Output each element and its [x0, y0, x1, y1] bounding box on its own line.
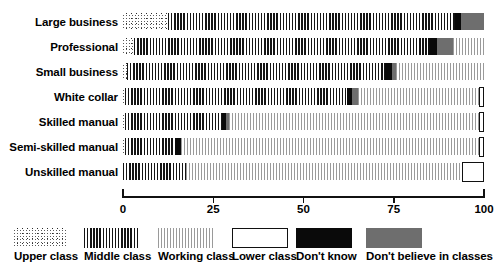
- stacked-bar-row: [123, 113, 484, 130]
- x-tick-label: 100: [474, 203, 493, 215]
- legend-label: Upper class: [14, 250, 78, 262]
- bar-segment-working: [181, 138, 479, 155]
- x-tick-label: 50: [297, 203, 310, 215]
- bar-segment-lower: [479, 112, 484, 132]
- x-tick-mark: [303, 196, 305, 203]
- bar-segment-lower: [479, 87, 484, 107]
- legend-swatch-dotted-stipple: [14, 228, 66, 248]
- bar-segment-lower: [479, 137, 484, 157]
- legend-label: Don't know: [296, 250, 357, 262]
- legend-item-lower: Lower class: [232, 228, 297, 262]
- legend-swatch-dense-vertical-stripes: [84, 228, 140, 248]
- stacked-bar-row: [123, 63, 484, 80]
- legend-swatch-light-vertical-stripes: [158, 228, 214, 248]
- bar-segment-middle: [127, 63, 385, 80]
- bar-segment-middle: [125, 113, 222, 130]
- bar-segment-middle: [134, 38, 428, 55]
- category-label-text: Large business: [35, 16, 118, 28]
- bar-segment-working: [229, 113, 478, 130]
- legend-swatch-white-outlined-box: [232, 228, 288, 248]
- category-label-text: Small business: [36, 66, 118, 78]
- legend-item-dontknow: Don't know: [296, 228, 357, 262]
- x-tick-label: 75: [387, 203, 400, 215]
- bar-segment-dontknow: [428, 38, 437, 55]
- x-tick-mark: [393, 196, 395, 203]
- stacked-bar-row: [123, 38, 484, 55]
- legend-label: Lower class: [232, 250, 297, 262]
- bar-segment-lower: [462, 162, 484, 182]
- stacked-bar-chart: Large businessProfessionalSmall business…: [0, 0, 501, 272]
- bar-segment-working: [186, 163, 462, 180]
- x-tick-label: 25: [207, 203, 220, 215]
- category-label-6: Semi-skilled manual: [0, 138, 118, 155]
- category-label-2: Professional: [0, 38, 118, 55]
- category-label-3: Small business: [0, 63, 118, 80]
- bar-segment-upper: [123, 13, 168, 30]
- x-tick-label: 0: [120, 203, 126, 215]
- bar-segment-upper: [123, 38, 134, 55]
- bar-segment-middle: [123, 163, 186, 180]
- category-label-7: Unskilled manual: [0, 163, 118, 180]
- bar-segment-dontknow: [385, 63, 392, 80]
- category-label-1: Large business: [0, 13, 118, 30]
- legend-label: Working class: [158, 250, 234, 262]
- legend-item-middle: Middle class: [84, 228, 151, 262]
- bar-segment-middle: [125, 88, 347, 105]
- category-label-text: Unskilled manual: [25, 166, 118, 178]
- bar-segment-dontbelieve: [461, 13, 484, 30]
- bar-segment-working: [453, 38, 484, 55]
- legend-swatch-solid-black: [296, 228, 352, 248]
- legend-label: Don't believe in classes: [366, 250, 493, 262]
- stacked-bar-row: [123, 163, 484, 180]
- stacked-bar-row: [123, 13, 484, 30]
- stacked-bar-row: [123, 88, 484, 105]
- bar-segment-dontbelieve: [437, 38, 453, 55]
- category-label-text: Semi-skilled manual: [9, 141, 118, 153]
- x-tick-mark: [213, 196, 215, 203]
- category-label-text: Professional: [50, 41, 118, 53]
- bar-segment-middle: [125, 138, 176, 155]
- category-label-text: Skilled manual: [39, 116, 118, 128]
- category-label-4: White collar: [0, 88, 118, 105]
- legend-item-upper: Upper class: [14, 228, 78, 262]
- category-label-text: White collar: [54, 91, 118, 103]
- stacked-bar-row: [123, 138, 484, 155]
- legend-label: Middle class: [84, 250, 151, 262]
- legend-item-dontbelieve: Don't believe in classes: [366, 228, 493, 262]
- x-tick-mark: [122, 189, 124, 198]
- legend-item-working: Working class: [158, 228, 234, 262]
- bar-segment-middle: [168, 13, 455, 30]
- legend-swatch-solid-gray: [366, 228, 422, 248]
- bar-segment-working: [358, 88, 479, 105]
- bar-segment-working: [396, 63, 484, 80]
- chart-legend: Upper classMiddle classWorking classLowe…: [0, 228, 501, 272]
- x-tick-mark: [483, 189, 485, 198]
- category-label-5: Skilled manual: [0, 113, 118, 130]
